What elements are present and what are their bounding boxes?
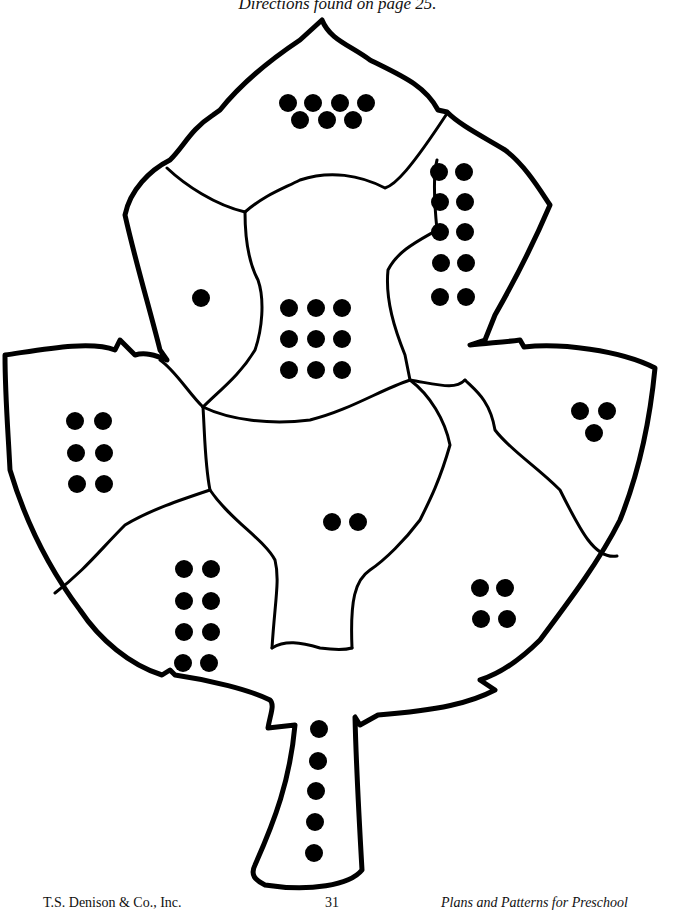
count-dots bbox=[66, 94, 616, 862]
count-dot bbox=[344, 111, 362, 129]
count-dot bbox=[307, 299, 325, 317]
segment-right-lobe bbox=[571, 402, 616, 442]
count-dot bbox=[432, 254, 450, 272]
count-dot bbox=[95, 475, 113, 493]
count-dot bbox=[598, 402, 616, 420]
count-dot bbox=[304, 94, 322, 112]
count-dot bbox=[431, 223, 449, 241]
count-dot bbox=[455, 163, 473, 181]
count-dot bbox=[456, 223, 474, 241]
count-dot bbox=[280, 361, 298, 379]
count-dot bbox=[174, 654, 192, 672]
count-dot bbox=[585, 424, 603, 442]
count-dot bbox=[175, 623, 193, 641]
count-dot bbox=[471, 579, 489, 597]
count-dot bbox=[457, 254, 475, 272]
count-dot bbox=[202, 592, 220, 610]
count-dot bbox=[498, 610, 516, 628]
publisher-label: T.S. Denison & Co., Inc. bbox=[43, 895, 182, 911]
page-footer: T.S. Denison & Co., Inc. 31 Plans and Pa… bbox=[0, 895, 675, 915]
count-dot bbox=[331, 94, 349, 112]
count-dot bbox=[318, 111, 336, 129]
book-title: Plans and Patterns for Preschool bbox=[441, 895, 628, 911]
count-dot bbox=[279, 94, 297, 112]
count-dot bbox=[202, 623, 220, 641]
count-dot bbox=[307, 782, 325, 800]
count-dot bbox=[333, 330, 351, 348]
segment-stem bbox=[305, 720, 328, 862]
count-dot bbox=[333, 361, 351, 379]
count-dot bbox=[496, 579, 514, 597]
segment-lower-right bbox=[471, 579, 516, 628]
count-dot bbox=[280, 330, 298, 348]
count-dot bbox=[67, 444, 85, 462]
count-dot bbox=[309, 752, 327, 770]
leaf-pattern bbox=[0, 0, 675, 916]
count-dot bbox=[357, 94, 375, 112]
count-dot bbox=[472, 610, 490, 628]
count-dot bbox=[175, 560, 193, 578]
count-dot bbox=[349, 513, 367, 531]
segment-upper-left bbox=[192, 289, 210, 307]
count-dot bbox=[95, 444, 113, 462]
count-dot bbox=[291, 111, 309, 129]
segment-upper-right bbox=[430, 163, 475, 306]
count-dot bbox=[200, 654, 218, 672]
count-dot bbox=[192, 289, 210, 307]
count-dot bbox=[202, 560, 220, 578]
count-dot bbox=[430, 163, 448, 181]
count-dot bbox=[94, 412, 112, 430]
count-dot bbox=[305, 844, 323, 862]
segment-upper-center bbox=[280, 299, 351, 379]
count-dot bbox=[307, 361, 325, 379]
count-dot bbox=[280, 299, 298, 317]
count-dot bbox=[66, 412, 84, 430]
segment-left-lobe bbox=[66, 412, 113, 493]
count-dot bbox=[68, 475, 86, 493]
count-dot bbox=[323, 513, 341, 531]
page-number: 31 bbox=[325, 895, 339, 911]
count-dot bbox=[431, 193, 449, 211]
count-dot bbox=[456, 193, 474, 211]
count-dot bbox=[457, 288, 475, 306]
count-dot bbox=[571, 402, 589, 420]
segment-lower-left bbox=[174, 560, 220, 672]
count-dot bbox=[306, 813, 324, 831]
segment-top-peak bbox=[279, 94, 375, 129]
segment-center bbox=[323, 513, 367, 531]
count-dot bbox=[307, 330, 325, 348]
count-dot bbox=[175, 592, 193, 610]
count-dot bbox=[431, 288, 449, 306]
count-dot bbox=[310, 720, 328, 738]
count-dot bbox=[333, 299, 351, 317]
